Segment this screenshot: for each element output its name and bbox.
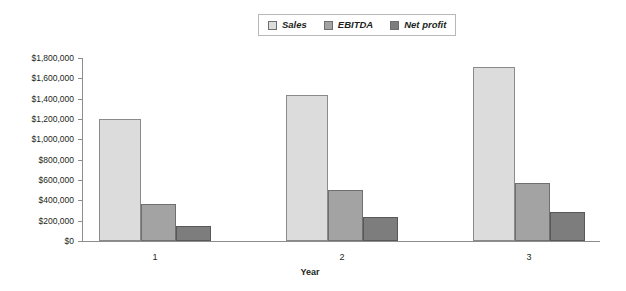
- y-axis-tick-mark: [78, 200, 83, 201]
- y-axis-tick-label: $1,800,000: [4, 54, 74, 63]
- y-axis-tick-label: $1,000,000: [4, 135, 74, 144]
- y-axis-tick-mark: [78, 78, 83, 79]
- y-axis-tick-label: $800,000: [4, 155, 74, 164]
- bar-net-profit-year-1: [176, 226, 211, 241]
- bar-ebitda-year-2: [328, 190, 363, 241]
- bar-sales-year-1: [99, 119, 141, 241]
- y-axis-tick-mark: [78, 221, 83, 222]
- bar-sales-year-3: [473, 67, 515, 241]
- y-axis-tick-label: $400,000: [4, 196, 74, 205]
- bar-net-profit-year-2: [363, 217, 398, 241]
- y-axis-tick-label: $1,600,000: [4, 74, 74, 83]
- x-axis-title: Year: [250, 268, 370, 277]
- bar-sales-year-2: [286, 95, 328, 241]
- plot-area: $0$200,000$400,000$600,000$800,000$1,000…: [0, 0, 626, 291]
- bar-net-profit-year-3: [550, 212, 585, 241]
- y-axis-tick-mark: [78, 180, 83, 181]
- y-axis-tick-mark: [78, 119, 83, 120]
- y-axis-line: [82, 58, 83, 242]
- bar-ebitda-year-1: [141, 204, 176, 241]
- y-axis-tick-mark: [78, 58, 83, 59]
- y-axis-tick-label: $1,200,000: [4, 115, 74, 124]
- x-axis-tick-label: 1: [79, 253, 231, 262]
- bar-ebitda-year-3: [515, 183, 550, 241]
- y-axis-tick-label: $0: [4, 237, 74, 246]
- y-axis-tick-mark: [78, 99, 83, 100]
- y-axis-tick-label: $1,400,000: [4, 94, 74, 103]
- x-axis-tick-label: 3: [453, 253, 605, 262]
- x-axis-line: [82, 241, 600, 242]
- x-axis-tick-label: 2: [266, 253, 418, 262]
- y-axis-tick-mark: [78, 160, 83, 161]
- bar-chart: Sales EBITDA Net profit $0$200,000$400,0…: [0, 0, 626, 291]
- y-axis-tick-label: $600,000: [4, 176, 74, 185]
- y-axis-tick-label: $200,000: [4, 216, 74, 225]
- y-axis-tick-mark: [78, 139, 83, 140]
